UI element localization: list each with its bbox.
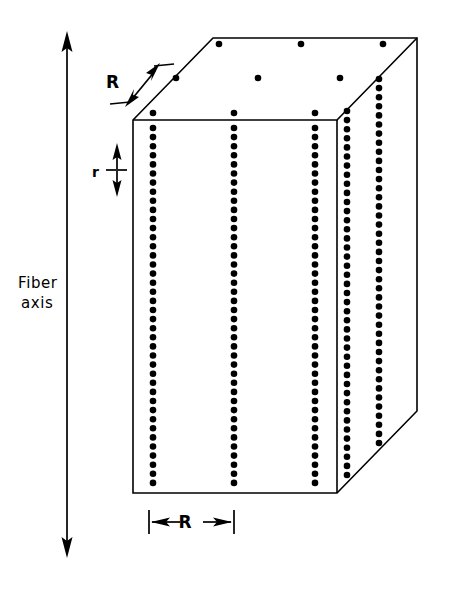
lattice-dot [376, 285, 383, 292]
lattice-dot [150, 480, 157, 487]
lattice-dot [150, 216, 157, 223]
lattice-dot [231, 207, 238, 214]
lattice-dot [344, 208, 351, 215]
lattice-dot [150, 452, 157, 459]
lattice-dot [231, 325, 238, 332]
lattice-dot [344, 272, 351, 279]
R-bottom-label: R [178, 512, 191, 532]
lattice-dot [376, 76, 383, 83]
lattice-dot [376, 103, 383, 110]
lattice-dot [150, 352, 157, 359]
lattice-dot [376, 321, 383, 328]
lattice-dot [150, 143, 157, 150]
lattice-dot [231, 434, 238, 441]
lattice-dot [337, 75, 344, 82]
lattice-dot [150, 370, 157, 377]
lattice-dot [376, 303, 383, 310]
lattice-dot [150, 461, 157, 468]
lattice-dot [376, 294, 383, 301]
lattice-dot [344, 153, 351, 160]
lattice-dot [150, 252, 157, 259]
lattice-dot [231, 216, 238, 223]
lattice-dot [231, 261, 238, 268]
lattice-dot [312, 471, 319, 478]
lattice-dot [344, 417, 351, 424]
lattice-dot [231, 198, 238, 205]
figure-canvas: Fiber axis R [0, 0, 449, 590]
lattice-dot [376, 403, 383, 410]
lattice-dot [312, 289, 319, 296]
lattice-dot [376, 312, 383, 319]
lattice-dot [150, 343, 157, 350]
lattice-dot [312, 134, 319, 141]
lattice-dot [344, 181, 351, 188]
lattice-dot [150, 316, 157, 323]
lattice-dot [376, 412, 383, 419]
lattice-dot [312, 188, 319, 195]
lattice-dot [312, 298, 319, 305]
lattice-dot [344, 199, 351, 206]
lattice-dot [150, 134, 157, 141]
lattice-dot [376, 203, 383, 210]
lattice-dot [376, 194, 383, 201]
lattice-dot [312, 170, 319, 177]
lattice-dot [312, 143, 319, 150]
lattice-dot [344, 381, 351, 388]
lattice-dot [344, 299, 351, 306]
lattice-dot [344, 235, 351, 242]
lattice-dot [150, 152, 157, 159]
lattice-dot [376, 349, 383, 356]
lattice-dot [298, 41, 305, 48]
lattice-dot [344, 335, 351, 342]
lattice-dot [231, 471, 238, 478]
lattice-dot [150, 434, 157, 441]
lattice-dot [312, 125, 319, 132]
lattice-dot [231, 361, 238, 368]
lattice-dot [312, 234, 319, 241]
lattice-dot [376, 331, 383, 338]
lattice-dot [344, 217, 351, 224]
lattice-dot [150, 298, 157, 305]
lattice-dot [376, 385, 383, 392]
lattice-dot [150, 425, 157, 432]
fiber-axis-label: Fiber axis [18, 274, 58, 312]
lattice-dot [376, 340, 383, 347]
lattice-dot [312, 279, 319, 286]
lattice-dot [376, 212, 383, 219]
lattice-dot [231, 289, 238, 296]
lattice-dot [376, 440, 383, 447]
lattice-dot [312, 389, 319, 396]
lattice-dot [344, 171, 351, 178]
lattice-dot [231, 170, 238, 177]
lattice-dot [312, 361, 319, 368]
lattice-dot [344, 454, 351, 461]
lattice-dot [231, 270, 238, 277]
lattice-dot [344, 463, 351, 470]
lattice-dot [150, 261, 157, 268]
lattice-dot [231, 252, 238, 259]
lattice-dot [376, 431, 383, 438]
lattice-dot [312, 161, 319, 168]
lattice-dot [231, 307, 238, 314]
lattice-dot [344, 162, 351, 169]
lattice-dot [376, 121, 383, 128]
lattice-dot [344, 363, 351, 370]
lattice-dot [231, 416, 238, 423]
lattice-dot [231, 352, 238, 359]
lattice-dot [231, 461, 238, 468]
R-top-shaft [132, 71, 155, 99]
lattice-dot [150, 307, 157, 314]
lattice-dot [344, 444, 351, 451]
lattice-dot [150, 207, 157, 214]
lattice-dot [344, 117, 351, 124]
lattice-dot [150, 170, 157, 177]
lattice-dot [231, 407, 238, 414]
lattice-dot [150, 161, 157, 168]
lattice-dot [376, 258, 383, 265]
lattice-dot [150, 270, 157, 277]
lattice-dot [150, 234, 157, 241]
lattice-dot [376, 422, 383, 429]
fiber-axis-arrow [62, 31, 73, 558]
lattice-dot [150, 243, 157, 250]
lattice-dot [344, 262, 351, 269]
